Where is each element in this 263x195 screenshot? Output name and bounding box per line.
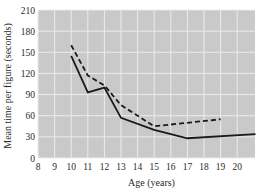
- x-tick-label: 9: [52, 162, 57, 172]
- x-tick-label: 13: [116, 162, 126, 172]
- y-axis-ticks: 0306090120150180210: [21, 6, 36, 164]
- x-tick-label: 18: [199, 162, 209, 172]
- x-axis-ticks: 891011121314151617181920: [36, 162, 243, 172]
- y-tick-label: 150: [21, 48, 36, 58]
- y-tick-label: 120: [21, 69, 36, 79]
- x-tick-label: 20: [232, 162, 242, 172]
- y-tick-label: 0: [30, 154, 35, 164]
- y-tick-label: 180: [21, 27, 36, 37]
- x-tick-label: 19: [216, 162, 226, 172]
- x-tick-label: 10: [66, 162, 76, 172]
- x-axis-label: Age (years): [128, 177, 175, 189]
- y-tick-label: 90: [26, 90, 36, 100]
- x-tick-label: 8: [36, 162, 41, 172]
- x-tick-label: 17: [183, 162, 193, 172]
- y-tick-label: 210: [21, 6, 36, 16]
- x-tick-label: 15: [149, 162, 159, 172]
- y-tick-label: 30: [26, 132, 36, 142]
- x-tick-label: 14: [133, 162, 143, 172]
- x-tick-label: 12: [100, 162, 110, 172]
- y-tick-label: 60: [26, 111, 36, 121]
- x-tick-label: 16: [166, 162, 176, 172]
- line-chart: 0306090120150180210 89101112131415161718…: [0, 0, 263, 195]
- x-tick-label: 11: [83, 162, 92, 172]
- y-axis-label: Mean time per figure (seconds): [2, 23, 14, 149]
